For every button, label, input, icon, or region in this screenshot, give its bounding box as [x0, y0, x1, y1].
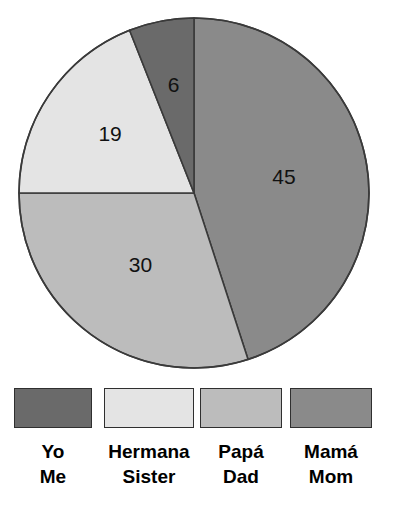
pie-slice-value-dad: 30	[129, 253, 152, 276]
legend-label-dad-en: Dad	[200, 464, 282, 489]
legend-label-me-en: Me	[14, 464, 92, 489]
pie-chart-figure: 45 30 19 6	[0, 0, 398, 382]
pie-slice-value-sister: 19	[98, 122, 121, 145]
legend-label-me: Yo Me	[14, 439, 92, 489]
legend-swatch-dad	[200, 388, 282, 428]
pie-chart-page: 45 30 19 6 Yo Me Hermana Sister	[0, 0, 398, 521]
legend-swatch-sister	[104, 388, 194, 428]
legend-item-me[interactable]: Yo Me	[14, 388, 92, 489]
legend-label-mom-es: Mamá	[290, 439, 372, 464]
legend-label-sister: Hermana Sister	[104, 439, 194, 489]
pie-slice-value-mom: 45	[272, 165, 295, 188]
legend-item-sister[interactable]: Hermana Sister	[104, 388, 194, 489]
legend-item-dad[interactable]: Papá Dad	[200, 388, 282, 489]
legend-label-dad-es: Papá	[200, 439, 282, 464]
legend-label-sister-en: Sister	[104, 464, 194, 489]
chart-legend: Yo Me Hermana Sister Papá Dad Mamá Mom	[0, 388, 398, 521]
legend-label-mom: Mamá Mom	[290, 439, 372, 489]
pie-chart-svg: 45 30 19 6	[0, 0, 398, 382]
legend-label-sister-es: Hermana	[104, 439, 194, 464]
legend-swatch-me	[14, 388, 92, 428]
legend-label-dad: Papá Dad	[200, 439, 282, 489]
legend-swatch-mom	[290, 388, 372, 428]
legend-label-mom-en: Mom	[290, 464, 372, 489]
legend-label-me-es: Yo	[14, 439, 92, 464]
legend-item-mom[interactable]: Mamá Mom	[290, 388, 372, 489]
pie-slice-value-me: 6	[168, 73, 180, 96]
